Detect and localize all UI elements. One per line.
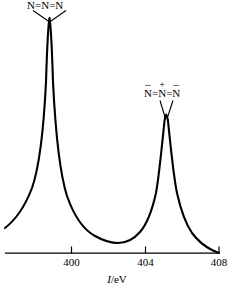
leader-line-anion-right <box>168 101 173 118</box>
leader-line-neutral-right <box>51 11 66 22</box>
atom-anion-n1: −N <box>144 88 152 99</box>
charge-anion-n2: + <box>159 81 165 88</box>
atom-n3-symbol: N <box>55 0 63 11</box>
atom-anion-n3: −N <box>172 88 180 99</box>
leader-line-anion-left <box>160 101 165 118</box>
atom-n3: N <box>55 0 63 11</box>
x-tick-label-400: 400 <box>63 257 80 268</box>
x-axis-title: I/eV <box>107 274 127 285</box>
atom-anion-n2: +N <box>158 88 166 99</box>
x-axis-title-units: /eV <box>111 273 127 285</box>
atom-n2: N <box>41 0 49 11</box>
atom-n1-symbol: N <box>27 0 35 11</box>
leader-line-neutral-left <box>33 11 48 22</box>
x-tick-label-404: 404 <box>137 257 154 268</box>
spectrum-plot-area <box>0 0 235 289</box>
charge-anion-n3: − <box>173 83 180 88</box>
atom-n1: N <box>27 0 35 11</box>
charge-anion-n1: − <box>145 83 152 88</box>
peak-annotation-terminal-nitrogen: N=N=N <box>27 0 63 11</box>
peak-annotation-central-nitrogen: −N=+N=−N <box>144 88 180 99</box>
x-tick-label-408: 408 <box>211 257 228 268</box>
xps-spectrum-chart: N=N=N −N=+N=−N 400 404 408 I/eV <box>0 0 235 289</box>
atom-n2-symbol: N <box>41 0 49 11</box>
spectrum-curve <box>5 18 219 253</box>
